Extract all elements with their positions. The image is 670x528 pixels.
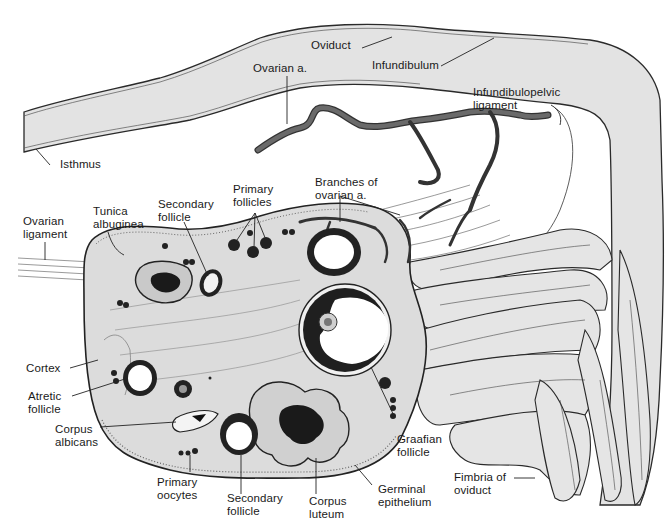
label-isthmus: Isthmus <box>60 158 101 171</box>
label-corpus-albicans: Corpus albicans <box>55 423 98 449</box>
label-ovarian-ligament: Ovarian ligament <box>23 215 67 241</box>
label-fimbria-of-oviduct: Fimbria of oviduct <box>454 471 506 497</box>
label-germinal-epithelium: Germinal epithelium <box>378 483 431 509</box>
label-ovarian-artery: Ovarian a. <box>253 62 307 75</box>
ovary-diagram: Oviduct Ovarian a. Infundibulum Infundib… <box>0 0 670 528</box>
label-oviduct: Oviduct <box>311 39 351 52</box>
label-cortex: Cortex <box>26 362 60 375</box>
corpus-albicans-upper <box>136 261 193 303</box>
atretic-follicle <box>123 360 157 396</box>
label-branches-of-ovarian-artery: Branches of ovarian a. <box>315 176 377 202</box>
label-corpus-luteum: Corpus luteum <box>309 495 347 521</box>
label-tunica-albuginea: Tunica albuginea <box>93 205 144 231</box>
label-primary-oocytes: Primary oocytes <box>157 476 197 502</box>
label-atretic-follicle: Atretic follicle <box>28 390 61 416</box>
secondary-follicle-lower <box>220 413 258 455</box>
ovarian-ligament-fibres <box>18 258 92 280</box>
label-infundibulum: Infundibulum <box>372 59 439 72</box>
label-secondary-follicle-top: Secondary follicle <box>158 198 214 224</box>
secondary-follicle-upper <box>307 228 361 276</box>
small-follicle <box>174 380 192 398</box>
label-infundibulopelvic-ligament: Infundibulopelvic ligament <box>473 86 560 112</box>
label-secondary-follicle-bottom: Secondary follicle <box>227 492 283 518</box>
label-graafian-follicle: Graafian follicle <box>397 433 442 459</box>
label-primary-follicles: Primary follicles <box>233 183 273 209</box>
ovary-illustration <box>0 0 670 528</box>
graafian-follicle <box>299 284 391 376</box>
